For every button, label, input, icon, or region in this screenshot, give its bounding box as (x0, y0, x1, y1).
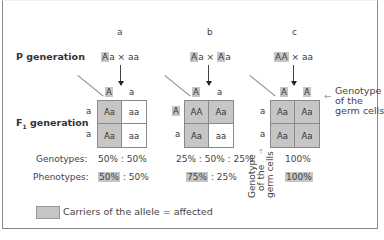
cross-a: Aa × aa (101, 52, 139, 62)
parent2: aa (302, 52, 313, 62)
affected-ratio: 75% (186, 172, 208, 182)
gamete-left-b1: A (172, 106, 180, 116)
cross-c: AA × aa (274, 52, 313, 62)
punnett-cell: Aa (271, 101, 295, 124)
phenotypes-label: Phenotypes: (33, 172, 89, 182)
punnett-cell: Aa (98, 101, 122, 124)
gamete-left-c1: a (260, 106, 265, 116)
genotypes-ratio-a: 50% : 50% (98, 154, 147, 164)
gamete-left-a2: a (86, 129, 91, 139)
genotypes-label: Genotypes: (36, 154, 88, 164)
phenotypes-ratio-b: 75% : 25% (186, 172, 237, 182)
gamete-top-a2: a (129, 87, 134, 97)
parent1-recessive: a (109, 52, 115, 62)
f1-suffix: generation (27, 117, 89, 128)
punnett-square-a: Aa aa Aa aa (97, 100, 147, 148)
parent1-recessive: a (198, 52, 204, 62)
parent2: aa (128, 52, 139, 62)
phenotypes-ratio-c: 100% (285, 172, 313, 182)
legend-swatch (36, 206, 60, 219)
parent1-dominant: A (190, 52, 198, 62)
punnett-cell: Aa (98, 124, 122, 147)
arrow-down-icon (120, 65, 121, 83)
punnett-cell: aa (122, 101, 146, 124)
gamete-left-b2: a (175, 129, 180, 139)
case-label-a: a (117, 27, 123, 37)
arrow-left-icon: ← (324, 91, 332, 101)
case-label-c: c (292, 27, 297, 37)
case-label-b: b (207, 27, 213, 37)
gamete-top-b2: a (217, 87, 222, 97)
punnett-cell: aa (122, 124, 146, 147)
affected-ratio: 50% (98, 172, 120, 182)
arrow-down-icon (208, 65, 209, 83)
cross-symbol: × (118, 52, 126, 62)
cross-symbol: × (207, 52, 215, 62)
punnett-cell: Aa (295, 124, 319, 147)
f1-generation-label: F1 generation (16, 117, 89, 130)
gamete-top-c2: A (303, 87, 311, 97)
arrow-down-icon (293, 65, 294, 83)
parent2-dominant: A (217, 52, 225, 62)
cross-b: Aa × Aa (190, 52, 231, 62)
legend-label: Carriers of the allele = affected (63, 206, 213, 217)
annotation-line: germ cells (266, 151, 275, 198)
punnett-cell: Aa (295, 101, 319, 124)
gamete-top-a1: A (105, 87, 113, 97)
annotation-line: germ cells (335, 106, 384, 116)
punnett-cell: aa (209, 124, 233, 147)
parent2-recessive: a (225, 52, 231, 62)
cross-symbol: × (291, 52, 299, 62)
phenotypes-ratio-a: 50% : 50% (98, 172, 149, 182)
punnett-cell: AA (185, 101, 209, 124)
parent1-dominant: AA (274, 52, 289, 62)
genotypes-ratio-b: 25% : 50% : 25% (176, 154, 254, 164)
punnett-square-b: AA Aa Aa aa (184, 100, 234, 148)
parent1-dominant: A (101, 52, 109, 62)
gamete-left-a1: a (86, 106, 91, 116)
gamete-top-c1: A (280, 87, 288, 97)
germ-cells-annotation-right: Genotype of the germ cells (335, 86, 384, 116)
genotypes-ratio-c: 100% (285, 154, 311, 164)
unaffected-ratio: : 50% (120, 172, 149, 182)
gamete-top-b1: A (192, 87, 200, 97)
punnett-cell: Aa (271, 124, 295, 147)
affected-ratio: 100% (285, 172, 313, 182)
punnett-cell: Aa (209, 101, 233, 124)
p-generation-label: P generation (16, 51, 85, 62)
punnett-square-c: Aa Aa Aa Aa (270, 100, 320, 148)
gamete-left-c2: a (260, 129, 265, 139)
unaffected-ratio: : 25% (208, 172, 237, 182)
punnett-cell: Aa (185, 124, 209, 147)
germ-cells-annotation-vertical: Genotype of the germ cells (248, 151, 275, 198)
